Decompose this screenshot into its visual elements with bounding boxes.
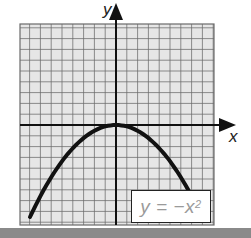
equation-exponent: 2 xyxy=(195,198,202,210)
bottom-divider-bar xyxy=(0,228,251,238)
equation-label-box: y = −x2 xyxy=(131,190,211,223)
x-axis-label: x xyxy=(229,127,238,147)
equation-text: y = −x xyxy=(140,196,195,218)
y-axis-label: y xyxy=(103,0,112,20)
parabola-chart xyxy=(0,0,251,238)
